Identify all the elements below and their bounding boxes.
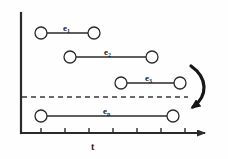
endpoint-circle-e2-start bbox=[64, 51, 76, 63]
endpoint-circle-e1-start bbox=[35, 27, 47, 39]
endpoint-circle-e2-end bbox=[146, 51, 158, 63]
interval-label-e1: e1 bbox=[63, 24, 70, 33]
endpoint-circle-e3-end bbox=[174, 77, 186, 89]
interval-label-e2: e2 bbox=[104, 48, 111, 57]
figure-canvas bbox=[0, 0, 228, 159]
interval-segments-group bbox=[35, 27, 186, 122]
x-axis-label: t bbox=[91, 142, 94, 152]
interval-label-e3: e3 bbox=[145, 74, 152, 83]
endpoint-circle-e3-start bbox=[115, 77, 127, 89]
wrap-around-arrow-icon bbox=[191, 66, 204, 107]
endpoint-circle-en-end bbox=[167, 110, 179, 122]
interval-timeline-figure: e1e2e3en t bbox=[0, 0, 228, 159]
endpoint-circle-e1-end bbox=[88, 27, 100, 39]
interval-label-en: en bbox=[103, 107, 110, 116]
endpoint-circle-en-start bbox=[35, 110, 47, 122]
